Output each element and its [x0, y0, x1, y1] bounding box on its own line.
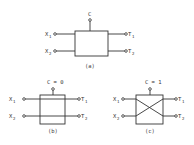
caption-a: (a) [85, 63, 95, 69]
control-terminal [52, 88, 55, 91]
svg-text:1: 1 [49, 34, 52, 39]
control-label: C [88, 11, 91, 17]
svg-text:1: 1 [13, 99, 16, 104]
control-label: C = 0 [47, 79, 64, 85]
switch-box [136, 95, 163, 124]
svg-text:2: 2 [132, 51, 135, 56]
svg-text:1: 1 [132, 34, 135, 39]
panel-c: C = 1 X 1 X 2 T 1 T 2 (c) [113, 79, 185, 134]
control-terminal [89, 19, 92, 22]
svg-text:1: 1 [85, 99, 88, 104]
svg-text:2: 2 [182, 116, 185, 121]
svg-text:1: 1 [117, 99, 120, 104]
control-terminal [149, 88, 152, 91]
svg-text:2: 2 [13, 116, 16, 121]
panel-a: C X 1 X 2 T 1 T 2 (a) [45, 11, 135, 69]
svg-text:2: 2 [49, 51, 52, 56]
caption-c: (c) [145, 128, 155, 134]
control-label: C = 1 [145, 79, 162, 85]
caption-b: (b) [48, 128, 58, 134]
switch-diagram: C X 1 X 2 T 1 T 2 (a) C = 0 X 1 X 2 T [0, 0, 194, 145]
svg-text:1: 1 [182, 99, 185, 104]
panel-b: C = 0 X 1 X 2 T 1 T 2 (b) [9, 79, 88, 134]
switch-box [75, 31, 108, 56]
svg-text:2: 2 [85, 116, 88, 121]
svg-text:2: 2 [117, 116, 120, 121]
